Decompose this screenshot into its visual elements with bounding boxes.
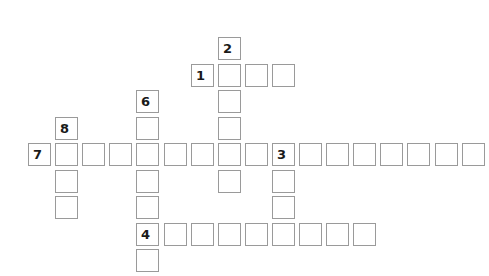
crossword-grid: 1234678 bbox=[0, 0, 489, 276]
letter-cell[interactable] bbox=[109, 143, 132, 166]
letter-cell[interactable] bbox=[245, 223, 268, 246]
letter-cell[interactable] bbox=[136, 196, 159, 219]
letter-cell[interactable] bbox=[82, 143, 105, 166]
letter-cell[interactable] bbox=[272, 64, 295, 87]
letter-cell[interactable] bbox=[407, 143, 430, 166]
letter-cell[interactable] bbox=[218, 170, 241, 193]
clue-number: 4 bbox=[141, 226, 150, 244]
letter-cell[interactable] bbox=[299, 223, 322, 246]
letter-cell[interactable] bbox=[191, 143, 214, 166]
numbered-cell-8[interactable]: 8 bbox=[55, 117, 78, 140]
numbered-cell-6[interactable]: 6 bbox=[136, 90, 159, 113]
letter-cell[interactable] bbox=[55, 170, 78, 193]
letter-cell[interactable] bbox=[218, 223, 241, 246]
letter-cell[interactable] bbox=[136, 143, 159, 166]
letter-cell[interactable] bbox=[164, 143, 187, 166]
letter-cell[interactable] bbox=[380, 143, 403, 166]
clue-number: 3 bbox=[277, 146, 286, 164]
numbered-cell-4[interactable]: 4 bbox=[136, 223, 159, 246]
letter-cell[interactable] bbox=[299, 143, 322, 166]
letter-cell[interactable] bbox=[136, 117, 159, 140]
clue-number: 6 bbox=[141, 93, 150, 111]
numbered-cell-7[interactable]: 7 bbox=[28, 143, 51, 166]
letter-cell[interactable] bbox=[218, 90, 241, 113]
letter-cell[interactable] bbox=[55, 196, 78, 219]
letter-cell[interactable] bbox=[218, 143, 241, 166]
letter-cell[interactable] bbox=[218, 117, 241, 140]
numbered-cell-1[interactable]: 1 bbox=[191, 64, 214, 87]
letter-cell[interactable] bbox=[245, 64, 268, 87]
letter-cell[interactable] bbox=[272, 170, 295, 193]
letter-cell[interactable] bbox=[326, 223, 349, 246]
clue-number: 2 bbox=[223, 40, 232, 58]
letter-cell[interactable] bbox=[164, 223, 187, 246]
clue-number: 1 bbox=[196, 67, 205, 85]
letter-cell[interactable] bbox=[326, 143, 349, 166]
letter-cell[interactable] bbox=[136, 249, 159, 272]
letter-cell[interactable] bbox=[353, 143, 376, 166]
letter-cell[interactable] bbox=[272, 223, 295, 246]
letter-cell[interactable] bbox=[136, 170, 159, 193]
letter-cell[interactable] bbox=[435, 143, 458, 166]
letter-cell[interactable] bbox=[245, 143, 268, 166]
letter-cell[interactable] bbox=[218, 64, 241, 87]
letter-cell[interactable] bbox=[353, 223, 376, 246]
letter-cell[interactable] bbox=[191, 223, 214, 246]
numbered-cell-3[interactable]: 3 bbox=[272, 143, 295, 166]
letter-cell[interactable] bbox=[462, 143, 485, 166]
clue-number: 8 bbox=[60, 120, 69, 138]
clue-number: 7 bbox=[33, 146, 42, 164]
letter-cell[interactable] bbox=[272, 196, 295, 219]
letter-cell[interactable] bbox=[55, 143, 78, 166]
numbered-cell-2[interactable]: 2 bbox=[218, 37, 241, 60]
